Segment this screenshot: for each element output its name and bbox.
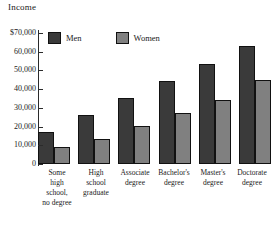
- x-axis-category-label: Doctoratedegree: [233, 168, 271, 208]
- y-axis-tick-label: 20,000: [14, 123, 36, 131]
- y-axis-tick-label: 60,000: [14, 48, 36, 56]
- legend-item-women: Women: [116, 32, 160, 44]
- bar-men: [118, 98, 134, 164]
- y-axis-tick: [38, 127, 43, 128]
- x-axis-category-label: Associatedegree: [116, 168, 154, 208]
- y-axis-tick: [38, 108, 43, 109]
- y-axis-tick-label: 30,000: [14, 104, 36, 112]
- bar-women: [215, 100, 231, 164]
- y-axis-tick-label: $70,000: [10, 29, 36, 37]
- y-axis-tick: [38, 89, 43, 90]
- y-axis-tick-label: 10,000: [14, 141, 36, 149]
- legend-label-men: Men: [66, 33, 82, 43]
- bar-group: [78, 33, 110, 164]
- bar-group: [239, 33, 271, 164]
- y-axis-tick: [38, 33, 43, 34]
- y-axis-tick-label: 40,000: [14, 85, 36, 93]
- x-axis-category-label: Highschoolgraduate: [77, 168, 115, 208]
- bar-women: [54, 147, 70, 164]
- bar-men: [159, 81, 175, 164]
- y-axis-tick: [38, 52, 43, 53]
- chart-legend: Men Women: [48, 32, 160, 44]
- y-axis-tick: [38, 164, 43, 165]
- legend-label-women: Women: [134, 33, 160, 43]
- y-axis-tick-labels: 010,00020,00030,00040,00050,00060,000$70…: [0, 0, 36, 234]
- bar-women: [175, 113, 191, 164]
- bar-groups: [38, 33, 271, 164]
- bar-men: [239, 46, 255, 164]
- x-axis-category-labels: Somehighschool,no degreeHighschoolgradua…: [38, 168, 271, 208]
- bar-women: [134, 126, 150, 164]
- bar-group: [118, 33, 150, 164]
- legend-item-men: Men: [48, 32, 82, 44]
- y-axis-tick: [38, 70, 43, 71]
- bar-men: [78, 115, 94, 164]
- bar-women: [94, 139, 110, 164]
- bar-group: [199, 33, 231, 164]
- y-axis-tick: [38, 145, 43, 146]
- y-axis-tick-label: 50,000: [14, 66, 36, 74]
- x-axis-category-label: Somehighschool,no degree: [38, 168, 76, 208]
- x-axis-category-label: Bachelor'sdegree: [155, 168, 193, 208]
- bar-men: [199, 64, 215, 164]
- y-axis-tick-label: 0: [32, 160, 36, 168]
- bar-group: [159, 33, 191, 164]
- legend-swatch-men: [48, 32, 61, 44]
- legend-swatch-women: [116, 32, 129, 44]
- bar-women: [255, 80, 271, 164]
- x-axis-category-label: Master'sdegree: [194, 168, 232, 208]
- bar-men: [38, 132, 54, 164]
- income-by-education-bar-chart: Income 010,00020,00030,00040,00050,00060…: [0, 0, 279, 234]
- plot-area: [38, 33, 271, 164]
